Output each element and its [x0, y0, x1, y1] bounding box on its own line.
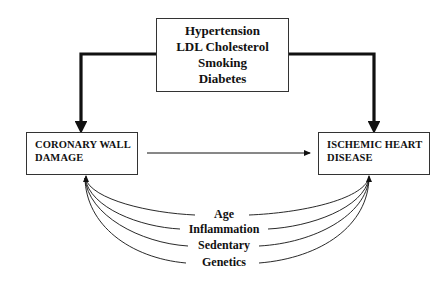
ischemic-heart-disease-label-line1: ISCHEMIC HEART [327, 139, 429, 152]
coronary-wall-damage-label-line2: DAMAGE [35, 152, 137, 165]
coronary-wall-damage-label-line1: CORONARY WALL [35, 139, 137, 152]
risk-factor-ldl-cholesterol: LDL Cholesterol [157, 39, 288, 55]
risk-factor-hypertension: Hypertension [157, 23, 288, 39]
coronary-wall-damage-box: CORONARY WALL DAMAGE [26, 132, 138, 175]
factor-inflammation: Inflammation [185, 223, 264, 236]
risk-factor-smoking: Smoking [157, 55, 288, 71]
arrow-risk-to-coronary [81, 54, 157, 128]
ischemic-heart-disease-box: ISCHEMIC HEART DISEASE [318, 132, 430, 175]
ischemic-heart-disease-label-line2: DISEASE [327, 152, 429, 165]
factor-age: Age [210, 208, 238, 221]
curves-factors-to-ischemic [249, 176, 369, 263]
curves-factors-to-coronary [85, 176, 195, 263]
arrow-risk-to-ischemic [288, 54, 374, 128]
risk-factor-diabetes: Diabetes [157, 71, 288, 87]
factor-sedentary: Sedentary [194, 239, 254, 252]
risk-factors-box: Hypertension LDL Cholesterol Smoking Dia… [156, 18, 289, 92]
factor-genetics: Genetics [198, 256, 250, 269]
